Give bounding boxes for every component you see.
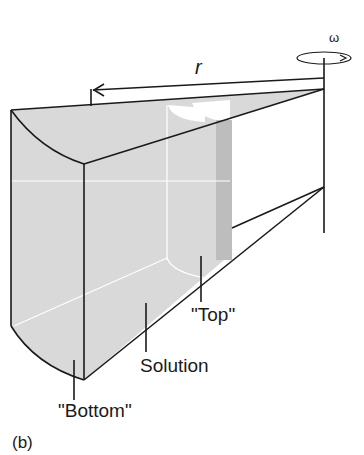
panel-label: (b) <box>12 433 33 453</box>
radius-arrow-line <box>93 78 324 90</box>
radius-label: r <box>195 56 202 79</box>
bottom-label: "Bottom" <box>58 400 132 422</box>
sector-lower-inner-ray <box>232 187 324 228</box>
top-label: "Top" <box>191 304 235 326</box>
top-band <box>216 120 232 260</box>
solution-label: Solution <box>140 355 209 377</box>
rotation-arrowhead-icon <box>340 55 346 61</box>
omega-label: ω <box>329 30 339 45</box>
centrifuge-sector-diagram <box>0 0 364 455</box>
